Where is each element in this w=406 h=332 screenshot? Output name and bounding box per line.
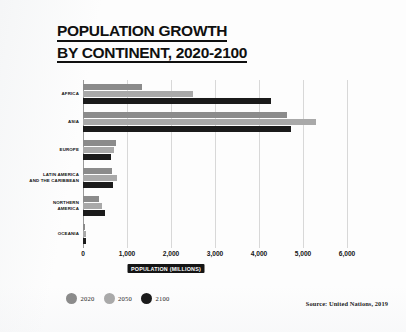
category-label-line: ASIA	[5, 119, 79, 125]
legend-label: 2050	[118, 295, 132, 302]
bar	[83, 238, 86, 244]
plot-area	[83, 80, 347, 248]
legend-item[interactable]: 2100	[141, 293, 170, 304]
chart-legend: 202020502100	[66, 293, 170, 304]
bar	[83, 119, 316, 125]
bar	[83, 84, 142, 90]
title-line-2: BY CONTINENT, 2020-2100	[57, 45, 247, 64]
bar	[83, 224, 85, 230]
x-tick-label: 6,000	[339, 250, 356, 257]
bar	[83, 175, 117, 181]
bar	[83, 210, 105, 216]
x-axis-title: POPULATION (MILLIONS)	[128, 264, 205, 273]
x-tick-label: 1,000	[119, 250, 136, 257]
legend-item[interactable]: 2020	[66, 293, 95, 304]
bar	[83, 182, 113, 188]
bar	[83, 147, 114, 153]
gridline-2000	[171, 80, 172, 248]
legend-label: 2100	[156, 295, 170, 302]
category-label-line: EUROPE	[5, 147, 79, 153]
legend-dot-icon	[66, 293, 77, 304]
bar	[83, 91, 193, 97]
gridline-4000	[259, 80, 260, 248]
category-label-line: OCEANIA	[5, 231, 79, 237]
gridline-1000	[127, 80, 128, 248]
bar-group	[83, 168, 347, 187]
bar	[83, 98, 271, 104]
bar	[83, 196, 99, 202]
bar	[83, 231, 86, 237]
category-label: NORTHERNAMERICA	[5, 200, 79, 211]
x-axis-ticks: 01,0002,0003,0004,0005,0006,000	[83, 250, 347, 264]
x-tick-label: 2,000	[163, 250, 180, 257]
bar	[83, 154, 111, 160]
x-tick-label: 0	[81, 250, 85, 257]
x-tick-label: 5,000	[295, 250, 312, 257]
gridline-3000	[215, 80, 216, 248]
bar	[83, 140, 116, 146]
category-label: AFRICA	[5, 91, 79, 97]
category-label-line: AND THE CARIBBEAN	[5, 178, 79, 184]
gridline-5000	[303, 80, 304, 248]
category-label: LATIN AMERICAAND THE CARIBBEAN	[5, 172, 79, 183]
legend-label: 2020	[81, 295, 95, 302]
x-tick-label: 4,000	[251, 250, 268, 257]
category-label: ASIA	[5, 119, 79, 125]
category-label: OCEANIA	[5, 231, 79, 237]
bar	[83, 126, 291, 132]
bar	[83, 203, 102, 209]
bar-group	[83, 84, 347, 103]
legend-item[interactable]: 2050	[104, 293, 133, 304]
category-label-line: AMERICA	[5, 206, 79, 212]
chart-page: POPULATION GROWTH BY CONTINENT, 2020-210…	[0, 0, 406, 332]
gridline-6000	[347, 80, 348, 248]
bar-group	[83, 140, 347, 159]
gridline-0	[83, 80, 84, 248]
bar-group	[83, 112, 347, 131]
source-note: Source: United Nations, 2019	[306, 300, 388, 307]
category-label-line: AFRICA	[5, 91, 79, 97]
page-title: POPULATION GROWTH BY CONTINENT, 2020-210…	[57, 22, 357, 63]
legend-dot-icon	[141, 293, 152, 304]
title-line-1: POPULATION GROWTH	[57, 23, 227, 42]
category-axis-labels: AFRICAASIAEUROPELATIN AMERICAAND THE CAR…	[0, 80, 79, 248]
x-tick-label: 3,000	[207, 250, 224, 257]
legend-dot-icon	[104, 293, 115, 304]
bar	[83, 168, 112, 174]
bar-group	[83, 196, 347, 215]
bar-group	[83, 224, 347, 243]
category-label: EUROPE	[5, 147, 79, 153]
bar	[83, 112, 287, 118]
